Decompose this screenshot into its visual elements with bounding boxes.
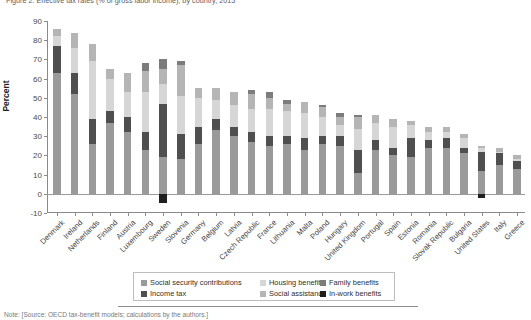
bar-stack[interactable]: [195, 21, 203, 213]
bar-stack[interactable]: [142, 21, 150, 213]
bar-segment: [301, 138, 309, 150]
bar-stack[interactable]: [496, 21, 504, 213]
y-axis-tick-mark: [44, 117, 47, 118]
y-axis-tick-mark: [44, 136, 47, 137]
bar-segment: [319, 136, 327, 144]
bar-stack[interactable]: [478, 21, 486, 213]
bar-segment: [124, 132, 132, 193]
bar-segment: [460, 134, 468, 138]
bar-stack[interactable]: [248, 21, 256, 213]
legend-item[interactable]: Housing benefits: [260, 278, 324, 287]
bar-segment: [248, 90, 256, 94]
bar-segment: [177, 65, 185, 96]
bar-segment: [513, 161, 521, 169]
bar-stack[interactable]: [53, 21, 61, 213]
bar-stack[interactable]: [301, 21, 309, 213]
legend-item[interactable]: Family benefits: [320, 278, 379, 287]
bar-segment: [106, 111, 114, 123]
x-axis-tick-mark: [269, 213, 270, 216]
bar-segment: [195, 144, 203, 194]
bar-stack[interactable]: [177, 21, 185, 213]
x-axis-tick-mark: [340, 213, 341, 216]
bar-stack[interactable]: [319, 21, 327, 213]
legend-label: Social assistance: [269, 289, 326, 298]
bar-segment: [124, 92, 132, 117]
bar-segment: [389, 127, 397, 148]
bar-segment: [71, 33, 79, 48]
y-axis-label: Percent: [1, 80, 11, 111]
bar-segment: [389, 155, 397, 193]
bar-segment: [407, 138, 415, 157]
bar-segment: [425, 140, 433, 148]
bar-stack[interactable]: [460, 21, 468, 213]
bar-segment: [230, 127, 238, 137]
bar-segment: [513, 169, 521, 194]
bar-segment: [319, 105, 327, 107]
bar-segment: [142, 132, 150, 149]
bar-stack[interactable]: [354, 21, 362, 213]
bar-segment: [89, 144, 97, 194]
bar-segment: [89, 44, 97, 61]
bar-stack[interactable]: [283, 21, 291, 213]
bar-stack[interactable]: [89, 21, 97, 213]
bar-segment: [71, 73, 79, 94]
bar-segment: [159, 59, 167, 69]
bar-segment: [283, 111, 291, 136]
bar-segment: [230, 136, 238, 194]
x-axis-tick-mark: [305, 213, 306, 216]
bar-segment: [372, 140, 380, 150]
bar-segment: [159, 84, 167, 103]
bar-segment: [336, 113, 344, 117]
bar-segment: [230, 92, 238, 105]
bar-stack[interactable]: [389, 21, 397, 213]
bar-segment: [425, 132, 433, 140]
bar-stack[interactable]: [124, 21, 132, 213]
bar-stack[interactable]: [230, 21, 238, 213]
bar-stack[interactable]: [443, 21, 451, 213]
x-axis-tick-mark: [216, 213, 217, 216]
bar-segment: [319, 117, 327, 136]
y-axis-tick-mark: [44, 155, 47, 156]
legend-item[interactable]: Social security contributions: [141, 278, 242, 287]
legend-item[interactable]: Income tax: [141, 289, 186, 298]
x-axis-tick-mark: [322, 213, 323, 216]
bar-stack[interactable]: [336, 21, 344, 213]
bar-segment: [443, 132, 451, 138]
x-axis-tick-mark: [145, 213, 146, 216]
bar-segment: [212, 130, 220, 193]
bar-segment: [266, 92, 274, 98]
bar-segment: [407, 157, 415, 193]
bar-stack[interactable]: [372, 21, 380, 213]
y-axis-tick-mark: [44, 79, 47, 80]
bar-segment: [177, 159, 185, 194]
bar-segment: [248, 109, 256, 132]
legend-item[interactable]: Social assistance: [260, 289, 326, 298]
bar-segment: [301, 113, 309, 138]
x-axis-tick-mark: [181, 213, 182, 216]
x-axis-tick-mark: [517, 213, 518, 216]
bar-stack[interactable]: [106, 21, 114, 213]
x-axis-tick-mark: [57, 213, 58, 216]
legend-item[interactable]: In-work benefits: [320, 289, 381, 298]
x-axis-tick-mark: [287, 213, 288, 216]
bar-segment: [460, 148, 468, 154]
bar-segment: [124, 73, 132, 92]
legend-swatch-icon: [141, 291, 147, 297]
bar-segment: [106, 69, 114, 79]
bar-segment: [248, 132, 256, 142]
bar-segment: [354, 150, 362, 173]
bar-segment: [336, 117, 344, 125]
bar-stack[interactable]: [513, 21, 521, 213]
bar-stack[interactable]: [159, 21, 167, 213]
footer-divider: [118, 306, 418, 307]
x-axis-tick-mark: [464, 213, 465, 216]
x-axis-tick-mark: [358, 213, 359, 216]
y-axis-line: [47, 21, 48, 213]
legend-label: Social security contributions: [150, 278, 242, 287]
bar-segment: [89, 119, 97, 144]
bar-stack[interactable]: [212, 21, 220, 213]
bar-stack[interactable]: [266, 21, 274, 213]
bar-stack[interactable]: [407, 21, 415, 213]
bar-stack[interactable]: [425, 21, 433, 213]
bar-stack[interactable]: [71, 21, 79, 213]
